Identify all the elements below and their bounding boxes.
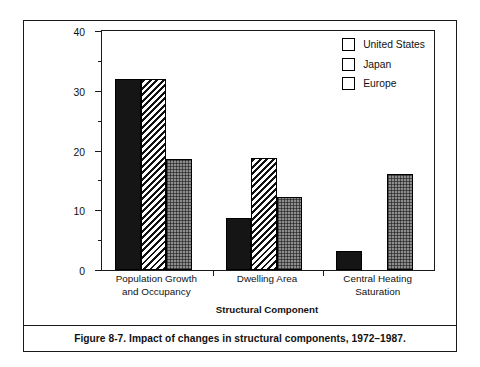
- y-tick-20: 20: [95, 151, 102, 152]
- y-axis-title-line-2: from 1972 to 1987 (percent): [35, 0, 49, 35]
- category-label-3-line-1: Central Heating: [322, 273, 433, 286]
- bar-united-states-group-1: [115, 79, 141, 270]
- y-tick-label-0: 0: [79, 266, 85, 277]
- y-tick-40: 40: [95, 31, 102, 32]
- y-axis-title-line-1: Change in Delivered Space Heating: [21, 0, 35, 35]
- legend-swatch-united-states: [342, 38, 355, 51]
- legend-label-japan: Japan: [363, 59, 391, 70]
- y-tick-10: 10: [95, 210, 102, 211]
- bar-united-states-group-2: [226, 218, 252, 270]
- plot-area: United States Japan Europe 010203040: [101, 30, 435, 271]
- y-tick-minor-35: [98, 61, 103, 62]
- y-tick-0: 0: [95, 270, 102, 271]
- y-tick-30: 30: [95, 91, 102, 92]
- y-tick-minor-25: [98, 121, 103, 122]
- legend-label-europe: Europe: [363, 78, 396, 89]
- category-label-2-line-1: Dwelling Area: [212, 273, 323, 286]
- bar-japan-group-2: [251, 158, 277, 270]
- x-axis-title: Structural Component: [101, 304, 433, 315]
- category-label-3: Central HeatingSaturation: [322, 273, 433, 298]
- y-tick-label-10: 10: [73, 206, 85, 217]
- y-tick-minor-15: [98, 180, 103, 181]
- y-tick-label-30: 30: [73, 86, 85, 97]
- y-tick-label-20: 20: [73, 146, 85, 157]
- category-label-1-line-2: and Occupancy: [101, 286, 212, 299]
- bar-europe-group-3: [387, 174, 413, 270]
- figure-frame: Change in Delivered Space Heating from 1…: [23, 20, 457, 352]
- bar-europe-group-1: [166, 159, 192, 270]
- bar-united-states-group-3: [336, 251, 362, 270]
- category-label-1: Population Growthand Occupancy: [101, 273, 212, 298]
- category-label-1-line-1: Population Growth: [101, 273, 212, 286]
- category-label-2: Dwelling Area: [212, 273, 323, 286]
- legend-swatch-japan: [342, 58, 355, 71]
- bar-japan-group-1: [141, 79, 167, 270]
- legend-item-japan: Japan: [342, 58, 425, 71]
- bar-europe-group-2: [277, 197, 303, 270]
- legend-item-europe: Europe: [342, 77, 425, 90]
- legend: United States Japan Europe: [342, 38, 425, 90]
- x-axis-category-labels: Population Growthand OccupancyDwelling A…: [101, 273, 433, 305]
- legend-swatch-europe: [342, 77, 355, 90]
- chart-region: Change in Delivered Space Heating from 1…: [24, 21, 456, 326]
- legend-label-united-states: United States: [363, 39, 425, 50]
- figure-caption: Figure 8-7. Impact of changes in structu…: [24, 326, 456, 351]
- y-tick-label-40: 40: [73, 27, 85, 38]
- category-label-3-line-2: Saturation: [322, 286, 433, 299]
- y-axis-title: Change in Delivered Space Heating from 1…: [21, 0, 73, 35]
- legend-item-united-states: United States: [342, 38, 425, 51]
- y-tick-minor-5: [98, 240, 103, 241]
